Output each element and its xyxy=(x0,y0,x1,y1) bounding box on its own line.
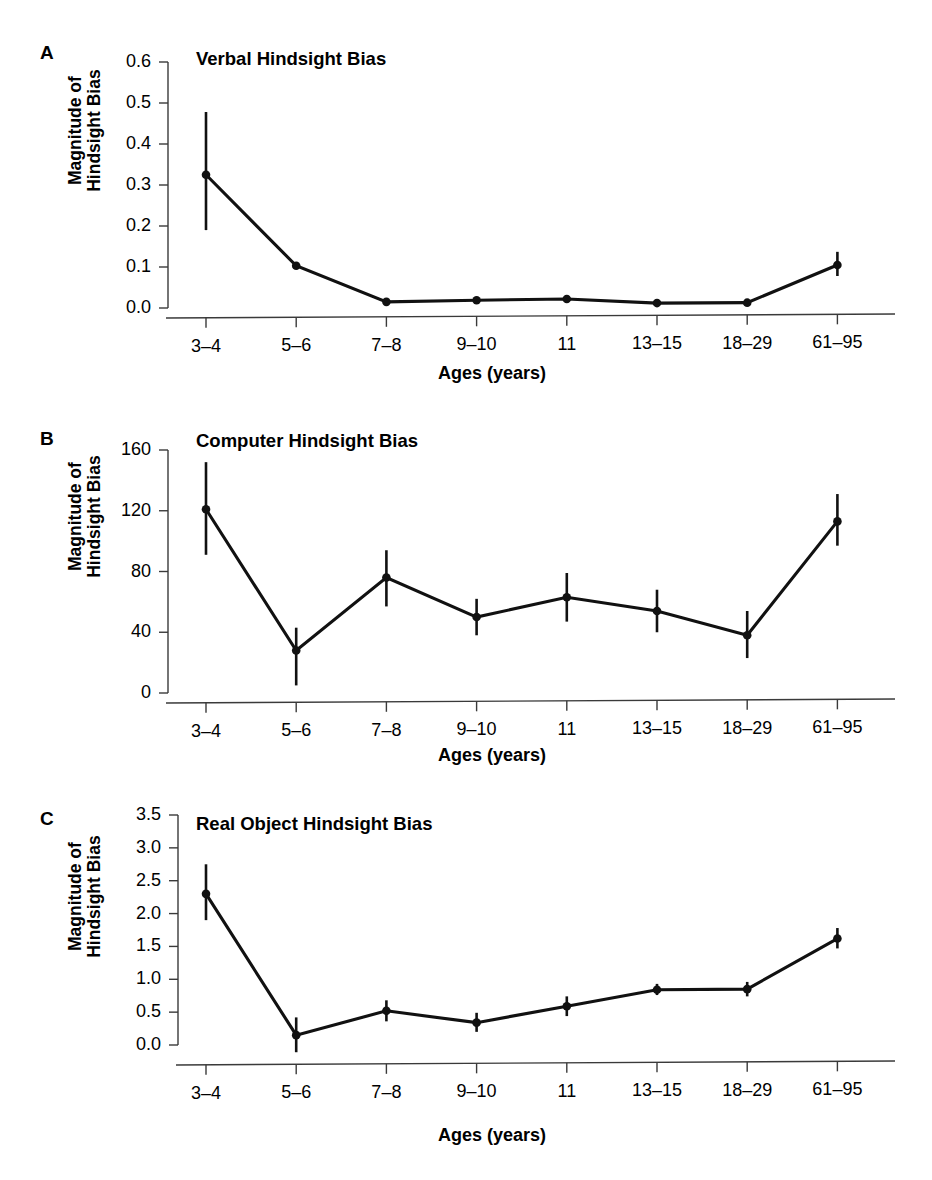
y-tick-label: 0.0 xyxy=(75,297,151,318)
x-tick-label: 5–6 xyxy=(281,1082,311,1103)
x-tick-label: 5–6 xyxy=(281,335,311,356)
panel-c: C Real Object Hindsight Bias Magnitude o… xyxy=(0,780,932,1180)
y-tick-label: 80 xyxy=(75,561,151,582)
data-point-marker xyxy=(472,296,481,305)
x-axis-line xyxy=(166,699,895,703)
y-tick-label: 0.6 xyxy=(75,51,151,72)
y-tick-label: 1.5 xyxy=(85,935,161,956)
x-tick-label: 13–15 xyxy=(632,1080,682,1101)
x-tick-label: 5–6 xyxy=(281,720,311,741)
panel-a: A Verbal Hindsight Bias Magnitude of Hin… xyxy=(0,0,932,400)
data-point-marker xyxy=(202,505,211,514)
x-tick-label: 7–8 xyxy=(371,720,401,741)
x-tick-label: 9–10 xyxy=(457,334,497,355)
y-tick-label: 1.0 xyxy=(85,968,161,989)
x-tick-label: 7–8 xyxy=(371,335,401,356)
x-tick-label: 9–10 xyxy=(457,1081,497,1102)
data-point-marker xyxy=(472,1018,481,1027)
x-tick-label: 11 xyxy=(557,1081,576,1102)
data-series-line xyxy=(206,509,837,650)
y-tick-label: 0.0 xyxy=(85,1034,161,1055)
y-tick-label: 0.3 xyxy=(75,174,151,195)
x-axis-line xyxy=(176,1061,895,1065)
data-point-marker xyxy=(743,985,752,994)
x-tick-label: 18–29 xyxy=(722,1080,772,1101)
data-point-marker xyxy=(743,631,752,640)
data-point-marker xyxy=(382,573,391,582)
data-point-marker xyxy=(382,1007,391,1016)
y-tick-label: 2.0 xyxy=(85,903,161,924)
x-tick-label: 7–8 xyxy=(371,1082,401,1103)
x-tick-label: 9–10 xyxy=(457,719,497,740)
y-tick-label: 0 xyxy=(75,682,151,703)
x-tick-label: 61–95 xyxy=(812,332,862,353)
data-point-marker xyxy=(653,986,662,995)
y-tick-label: 0.2 xyxy=(75,215,151,236)
y-tick-label: 160 xyxy=(75,439,151,460)
data-point-marker xyxy=(202,170,211,179)
y-tick-label: 0.5 xyxy=(75,92,151,113)
data-point-marker xyxy=(833,517,842,526)
y-tick-label: 0.1 xyxy=(75,256,151,277)
data-point-marker xyxy=(653,607,662,616)
y-tick-label: 3.0 xyxy=(85,837,161,858)
x-tick-label: 3–4 xyxy=(191,1083,221,1104)
data-point-marker xyxy=(833,934,842,943)
x-tick-label: 61–95 xyxy=(812,717,862,738)
x-tick-label: 18–29 xyxy=(722,333,772,354)
data-point-marker xyxy=(382,298,391,307)
hindsight-bias-figure: A Verbal Hindsight Bias Magnitude of Hin… xyxy=(0,0,932,1180)
panel-b: B Computer Hindsight Bias Magnitude of H… xyxy=(0,390,932,785)
data-series-line xyxy=(206,175,837,303)
y-tick-label: 0.4 xyxy=(75,133,151,154)
y-tick-label: 0.5 xyxy=(85,1001,161,1022)
data-point-marker xyxy=(292,261,301,270)
data-point-marker xyxy=(653,299,662,308)
y-tick-label: 3.5 xyxy=(85,804,161,825)
data-point-marker xyxy=(202,890,211,899)
data-point-marker xyxy=(472,613,481,622)
y-tick-label: 120 xyxy=(75,500,151,521)
data-point-marker xyxy=(292,1031,301,1040)
x-tick-label: 3–4 xyxy=(191,336,221,357)
data-point-marker xyxy=(292,646,301,655)
x-tick-label: 18–29 xyxy=(722,718,772,739)
data-point-marker xyxy=(563,295,572,304)
x-tick-label: 3–4 xyxy=(191,721,221,742)
data-point-marker xyxy=(833,261,842,270)
data-point-marker xyxy=(563,1002,572,1011)
x-tick-label: 11 xyxy=(557,719,576,740)
data-point-marker xyxy=(563,593,572,602)
data-series-line xyxy=(206,894,837,1035)
x-tick-label: 61–95 xyxy=(812,1079,862,1100)
y-tick-label: 2.5 xyxy=(85,870,161,891)
data-point-marker xyxy=(743,298,752,307)
x-tick-label: 13–15 xyxy=(632,718,682,739)
x-tick-label: 11 xyxy=(557,334,576,355)
x-axis-line xyxy=(166,314,895,318)
x-tick-label: 13–15 xyxy=(632,333,682,354)
y-tick-label: 40 xyxy=(75,621,151,642)
